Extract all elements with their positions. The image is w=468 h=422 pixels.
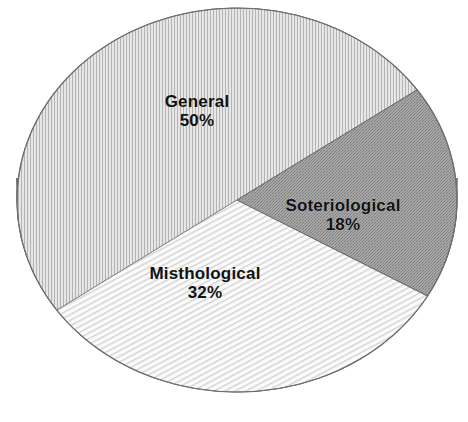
slice-label-general: General 50% xyxy=(131,92,263,130)
slice-label-soteriological: Soteriological 18% xyxy=(268,196,418,234)
slice-label-soteriological-value: 18% xyxy=(268,215,418,234)
pie-chart: General 50% Soteriological 18% Mistholog… xyxy=(0,0,468,422)
slice-label-general-name: General xyxy=(131,92,263,111)
slice-label-soteriological-name: Soteriological xyxy=(268,196,418,215)
slice-label-misthological-value: 32% xyxy=(125,283,285,302)
slice-label-general-value: 50% xyxy=(131,111,263,130)
slice-label-misthological: Misthological 32% xyxy=(125,264,285,302)
slice-label-misthological-name: Misthological xyxy=(125,264,285,283)
